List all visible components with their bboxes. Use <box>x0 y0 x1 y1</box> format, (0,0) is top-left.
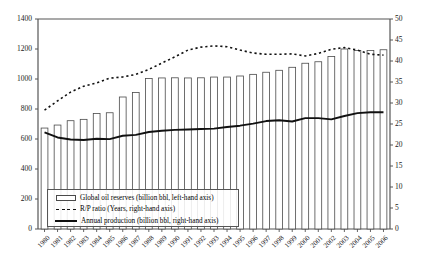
legend-label-reserves: Global oil reserves (billion bbl, left-h… <box>80 194 214 203</box>
y-axis-right-tick: 35 <box>395 78 421 86</box>
y-axis-right-tick: 45 <box>395 36 421 44</box>
legend-label-rp-ratio: R/P ratio (Years, right-hand axis) <box>80 205 175 214</box>
y-axis-left-tick: 200 <box>6 195 32 203</box>
y-axis-left-tick: 400 <box>6 165 32 173</box>
solid-line-icon <box>55 220 77 222</box>
chart-legend: Global oil reserves (billion bbl, left-h… <box>47 189 239 227</box>
legend-item-rp-ratio: R/P ratio (Years, right-hand axis) <box>51 204 235 215</box>
y-axis-right-tick: 0 <box>395 225 421 233</box>
legend-label-production: Annual production (billion bbl, right-ha… <box>81 217 218 226</box>
chart-container: 0200400600800100012001400 05101520253035… <box>0 0 433 276</box>
dotted-line-icon <box>56 207 76 213</box>
y-axis-right-tick: 25 <box>395 120 421 128</box>
y-axis-right-tick: 5 <box>395 204 421 212</box>
y-axis-left-tick: 1400 <box>6 15 32 23</box>
y-axis-left-tick: 600 <box>6 135 32 143</box>
y-axis-right-tick: 10 <box>395 183 421 191</box>
y-axis-left-tick: 1200 <box>6 45 32 53</box>
y-axis-left-tick: 0 <box>6 225 32 233</box>
y-axis-left-tick: 1000 <box>6 75 32 83</box>
y-axis-right-tick: 20 <box>395 141 421 149</box>
bar-swatch-icon <box>56 195 76 201</box>
y-axis-left-tick: 800 <box>6 105 32 113</box>
y-axis-right-tick: 15 <box>395 162 421 170</box>
y-axis-right-tick: 30 <box>395 99 421 107</box>
legend-item-production: Annual production (billion bbl, right-ha… <box>51 216 235 227</box>
y-axis-right-tick: 40 <box>395 57 421 65</box>
y-axis-right-tick: 50 <box>395 15 421 23</box>
legend-item-reserves: Global oil reserves (billion bbl, left-h… <box>51 193 235 204</box>
